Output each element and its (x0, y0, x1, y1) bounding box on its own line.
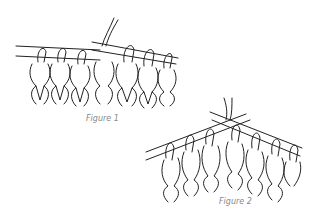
figure-1-drawing (16, 18, 178, 108)
figure-2-drawing (146, 98, 302, 202)
knitting-illustration (0, 0, 326, 224)
figure-1-caption: Figure 1 (86, 114, 119, 123)
figure-2-caption: Figure 2 (219, 197, 252, 206)
